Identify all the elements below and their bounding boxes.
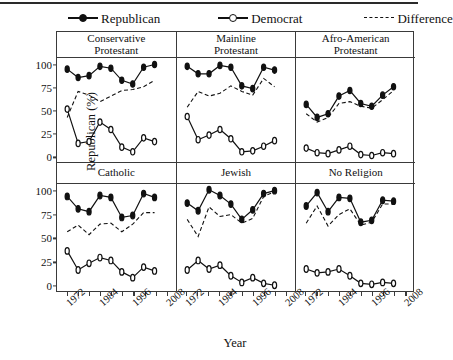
data-point-democrat xyxy=(98,254,102,261)
data-point-democrat xyxy=(337,147,341,153)
data-point-democrat xyxy=(250,148,254,154)
data-point-democrat xyxy=(326,269,330,276)
data-point-democrat xyxy=(207,266,211,273)
x-tick-mark xyxy=(122,291,123,296)
x-tick-mark xyxy=(328,291,329,296)
data-point-republican xyxy=(392,84,396,90)
data-point-republican xyxy=(218,62,222,68)
data-point-republican xyxy=(272,187,276,194)
data-point-democrat xyxy=(304,266,308,273)
x-axis: 1972198419962008197219841996200819721984… xyxy=(57,291,415,297)
data-point-republican xyxy=(65,66,69,72)
data-point-democrat xyxy=(359,280,363,287)
data-point-republican xyxy=(152,194,156,201)
y-tick-label: 0 xyxy=(47,280,53,292)
data-point-democrat xyxy=(348,272,352,279)
data-point-republican xyxy=(87,208,91,215)
data-point-democrat xyxy=(131,149,135,155)
data-point-democrat xyxy=(109,126,113,132)
data-point-republican xyxy=(218,192,222,199)
data-point-democrat xyxy=(185,267,189,274)
data-point-republican xyxy=(207,186,211,193)
dashed-line-icon xyxy=(364,12,394,24)
data-point-republican xyxy=(250,85,254,91)
data-point-democrat xyxy=(98,119,102,125)
legend-item-republican: Republican xyxy=(68,12,160,25)
data-point-democrat xyxy=(120,269,124,276)
series-line-difference xyxy=(67,80,154,117)
top-rule xyxy=(0,2,418,4)
panel-mainline-protestant xyxy=(177,58,297,162)
data-point-republican xyxy=(196,207,200,214)
data-point-democrat xyxy=(261,143,265,149)
panel-title-afro-american-protestant: Afro-American Protestant xyxy=(296,32,415,58)
y-tick-label: 75 xyxy=(41,82,52,94)
legend-label-republican: Republican xyxy=(101,12,160,25)
data-point-republican xyxy=(109,65,113,71)
data-point-republican xyxy=(152,61,156,67)
data-point-republican xyxy=(228,64,232,70)
x-tick-mark xyxy=(89,291,90,296)
x-tick-mark xyxy=(208,291,209,296)
series-line-difference xyxy=(187,78,274,107)
data-point-democrat xyxy=(272,137,276,143)
filled-circle-line-icon xyxy=(68,12,98,24)
data-point-republican xyxy=(120,214,124,221)
data-point-democrat xyxy=(87,260,91,267)
panel-title-catholic: Catholic xyxy=(57,162,177,184)
data-point-democrat xyxy=(76,267,80,274)
y-tick-label: 25 xyxy=(41,256,52,268)
data-point-republican xyxy=(98,63,102,69)
data-point-republican xyxy=(196,71,200,77)
data-point-republican xyxy=(207,71,211,77)
data-point-democrat xyxy=(381,149,385,155)
data-point-republican xyxy=(239,83,243,89)
data-point-democrat xyxy=(142,135,146,141)
data-point-republican xyxy=(348,87,352,93)
data-point-democrat xyxy=(109,257,113,264)
data-point-democrat xyxy=(152,268,156,275)
data-point-democrat xyxy=(370,281,374,288)
data-point-republican xyxy=(185,63,189,69)
panel-title-jewish: Jewish xyxy=(177,162,297,184)
data-point-republican xyxy=(370,103,374,109)
panel-title-line-1: Jewish xyxy=(221,167,251,179)
data-point-republican xyxy=(120,77,124,83)
legend-item-democrat: Democrat xyxy=(218,12,302,25)
data-point-democrat xyxy=(142,264,146,271)
data-point-republican xyxy=(76,206,80,213)
data-point-democrat xyxy=(120,144,124,150)
data-point-republican xyxy=(381,92,385,98)
legend-label-democrat: Democrat xyxy=(251,12,302,25)
data-point-republican xyxy=(304,101,308,107)
data-point-republican xyxy=(228,201,232,208)
data-point-republican xyxy=(76,74,80,80)
data-point-republican xyxy=(337,93,341,99)
y-tick-label: 50 xyxy=(41,105,52,117)
panel-title-line-1: Conservative xyxy=(87,33,145,45)
data-point-democrat xyxy=(228,272,232,279)
panel-jewish xyxy=(177,184,297,291)
panel-strip-row-2: Catholic Jewish No Religion xyxy=(57,162,415,184)
y-tick-label: 100 xyxy=(36,59,53,71)
plot-frame: Republican (%) 02550751000255075100 Cons… xyxy=(56,31,414,292)
panel-title-line-2: Protestant xyxy=(334,45,378,57)
data-point-democrat xyxy=(218,262,222,269)
panel-title-line-1: Afro-American xyxy=(322,33,390,45)
legend-item-difference: Difference xyxy=(364,12,452,25)
data-point-republican xyxy=(109,194,113,201)
open-circle-line-icon xyxy=(218,12,248,24)
y-tick-label: 75 xyxy=(41,209,52,221)
data-point-democrat xyxy=(76,140,80,146)
data-point-republican xyxy=(315,114,319,120)
panel-title-no-religion: No Religion xyxy=(296,162,415,184)
data-point-republican xyxy=(261,64,265,70)
panel-no-religion xyxy=(296,184,415,291)
data-point-republican xyxy=(250,206,254,213)
data-point-democrat xyxy=(228,136,232,142)
panel-title-conservative-protestant: Conservative Protestant xyxy=(57,32,177,58)
panel-plots-row-2 xyxy=(57,184,415,291)
data-point-democrat xyxy=(196,257,200,264)
data-point-democrat xyxy=(315,270,319,277)
